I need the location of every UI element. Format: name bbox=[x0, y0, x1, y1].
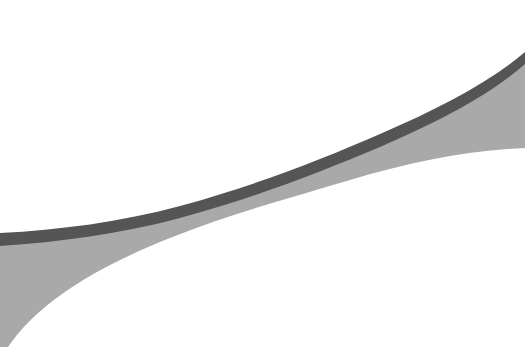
abstract-graphic bbox=[0, 0, 525, 347]
curved-ribbon-graphic bbox=[0, 0, 525, 347]
